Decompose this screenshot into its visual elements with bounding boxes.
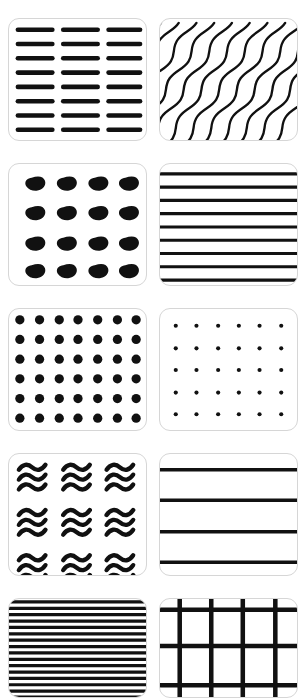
swatch-tile-lattice-grid[interactable]	[159, 598, 298, 698]
lattice-grid-icon	[160, 599, 297, 697]
diagonal-wavy-lines-icon	[160, 19, 297, 140]
swatch-tile-large-dot-grid[interactable]	[8, 308, 147, 431]
swatch-tile-dashed-horizontal-bars[interactable]	[8, 18, 147, 141]
swatch-tile-teardrop-comma-grid[interactable]	[8, 163, 147, 286]
wide-spaced-rules-icon	[160, 454, 297, 575]
dense-horizontal-stripes-icon	[9, 599, 146, 697]
swatch-tile-diagonal-wavy-lines[interactable]	[159, 18, 298, 141]
teardrop-comma-grid-icon	[9, 164, 146, 285]
horizontal-stripes-medium-icon	[160, 164, 297, 285]
swatch-tile-triple-wave-glyph-grid[interactable]	[8, 453, 147, 576]
swatch-tile-dense-horizontal-stripes[interactable]	[8, 598, 147, 698]
swatch-tile-horizontal-stripes-medium[interactable]	[159, 163, 298, 286]
triple-wave-glyph-icon	[9, 454, 146, 575]
swatch-tile-small-dot-grid[interactable]	[159, 308, 298, 431]
small-dot-grid-icon	[160, 309, 297, 430]
large-dot-grid-icon	[9, 309, 146, 430]
dashed-horizontal-bars-icon	[9, 19, 146, 140]
swatch-tile-wide-spaced-rules[interactable]	[159, 453, 298, 576]
